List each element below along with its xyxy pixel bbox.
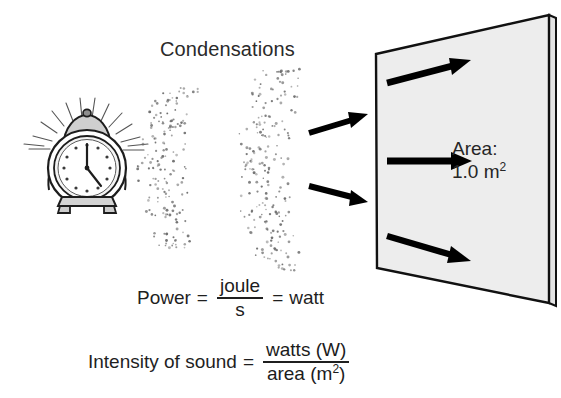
power-denominator: s (232, 299, 248, 320)
intensity-numerator: watts (W) (263, 340, 349, 361)
power-fraction: joule s (214, 276, 266, 320)
sound-wave-dots (136, 68, 301, 272)
incoming-arrow-top (309, 112, 368, 133)
intensity-fraction: watts (W) area (m2) (260, 340, 352, 384)
formula-intensity: Intensity of sound = watts (W) area (m2) (88, 340, 352, 384)
diagram-canvas: Condensations Area: 1.0 m2 Power = joule… (0, 0, 561, 398)
clock-center-pin (85, 166, 90, 171)
incoming-arrow-middle (309, 186, 368, 206)
intensity-lhs: Intensity of sound (88, 351, 237, 373)
power-equals-2: = (266, 287, 289, 309)
area-label: Area: 1.0 m2 (452, 137, 506, 183)
power-rhs: watt (289, 287, 324, 309)
alarm-clock-icon (24, 98, 148, 213)
area-value: 1.0 m2 (452, 160, 506, 183)
clock-foot-right (104, 206, 116, 213)
power-lhs: Power (137, 287, 191, 309)
clock-base (58, 197, 116, 206)
intensity-equals: = (237, 351, 260, 373)
condensations-label: Condensations (160, 38, 295, 61)
power-equals-1: = (191, 287, 214, 309)
clock-foot-left (58, 206, 70, 213)
formula-power: Power = joule s = watt (137, 276, 324, 320)
intensity-denominator: area (m2) (264, 363, 348, 384)
incoming-arrows (309, 112, 368, 206)
area-title: Area: (452, 137, 506, 160)
clock-knob (83, 109, 91, 116)
power-numerator: joule (217, 276, 263, 297)
